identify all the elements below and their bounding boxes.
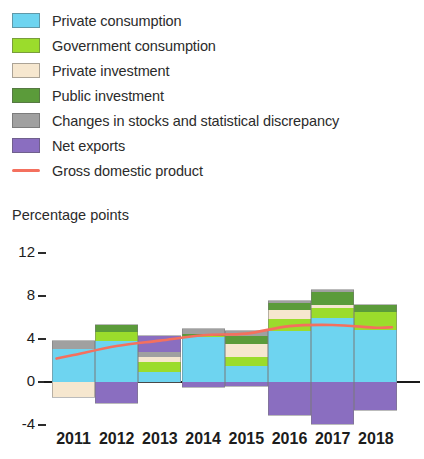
gdp-line-path [57,325,392,359]
gdp-line-chart [0,0,424,459]
plot-area: 12840-420112012201320142015201620172018 [0,0,424,459]
chart-page: Private consumptionGovernment consumptio… [0,0,424,459]
